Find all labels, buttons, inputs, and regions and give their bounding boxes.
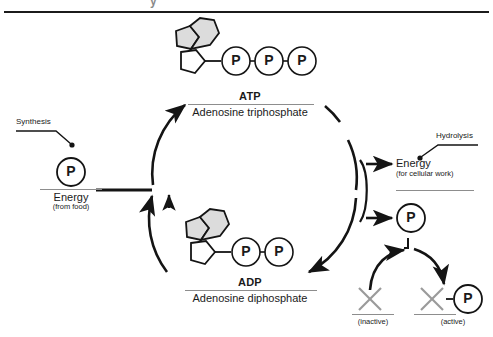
right-energy-divider [396,190,474,191]
inactive-divider [352,314,394,315]
right-energy-use-label: (for cellular work) [396,170,454,178]
atp-name-label: ATP [180,90,320,102]
left-energy-divider [40,189,102,190]
adp-full-name-label: Adenosine diphosphate [180,292,320,304]
atp-full-name-label: Adenosine triphosphate [180,106,320,118]
right-energy-label: Energy [396,157,431,169]
activation-arrows [370,238,444,290]
right-phosphate-label: P [397,210,425,226]
active-caption: (active) [428,318,478,326]
left-input-connector [96,190,169,208]
synthesis-callout-label: Synthesis [16,118,51,127]
atp-phosphate-1-label: P [222,53,250,69]
atp-phosphate-3-label: P [288,53,316,69]
inactive-x-graphic [359,288,381,310]
adp-phosphate-1-label: P [232,244,260,260]
adp-name-divider [185,290,317,291]
active-phosphate-label: P [454,291,482,307]
atp-adp-cycle-figure: y [0,0,493,337]
adp-name-label: ADP [180,276,320,288]
left-energy-source-label: (from food) [36,203,106,211]
active-divider [414,314,456,315]
atp-phosphate-2-label: P [255,53,283,69]
adp-phosphate-2-label: P [265,244,293,260]
hydrolysis-callout-label: Hydrolysis [436,132,473,141]
atp-name-divider [188,104,314,105]
left-phosphate-label: P [57,164,85,180]
synthesis-callout-leader [16,131,75,148]
inactive-caption: (inactive) [348,318,398,326]
right-output-bracket [360,160,392,222]
